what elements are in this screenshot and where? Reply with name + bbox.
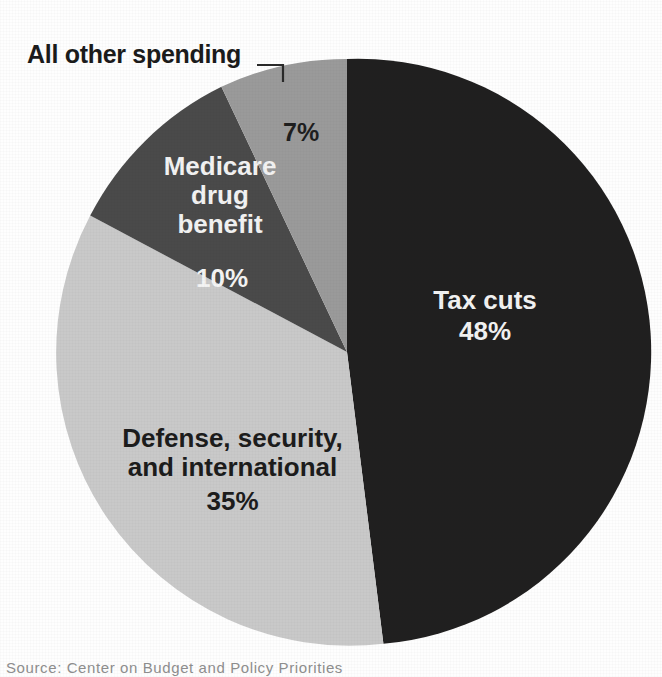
slice-label-defense-security-international: Defense, security, and international <box>100 424 365 482</box>
slice-value-all-other-spending: 7% <box>283 118 319 146</box>
slice-value-defense-security-international: 35% <box>100 487 365 516</box>
slice-value-tax-cuts: 48% <box>420 317 550 346</box>
slice-label-tax-cuts: Tax cuts <box>420 286 550 315</box>
pie-chart-page: All other spending 7% Medicare drug bene… <box>0 0 662 677</box>
pie-chart-graphic <box>0 0 662 677</box>
slice-label-medicare-drug-benefit: Medicare drug benefit <box>140 152 300 239</box>
pie-slice-tax-cuts[interactable] <box>347 59 651 644</box>
source-note: Source: Center on Budget and Policy Prio… <box>6 659 343 676</box>
slice-value-medicare-drug-benefit: 10% <box>196 264 248 293</box>
slice-label-all-other-spending: All other spending <box>27 40 241 68</box>
